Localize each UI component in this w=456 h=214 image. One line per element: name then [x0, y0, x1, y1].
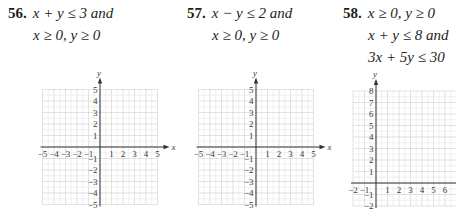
x-tick-label: −2	[348, 185, 358, 195]
x-tick-label: −4	[49, 149, 59, 159]
y-tick-label: −3	[244, 177, 254, 187]
y-tick-label: −4	[88, 188, 98, 198]
x-tick-label: 3	[288, 149, 293, 159]
y-tick-label: −2	[244, 165, 254, 175]
x-tick-label: −5	[194, 149, 204, 159]
x-axis-arrow-icon	[320, 145, 326, 149]
y-tick-label: −5	[244, 200, 254, 210]
x-tick-label: 4	[144, 149, 149, 159]
y-tick-label: −4	[244, 188, 254, 198]
x-tick-label: 2	[397, 185, 402, 195]
x-tick-label: −4	[205, 149, 215, 159]
y-axis-arrow-icon	[254, 78, 258, 84]
x-tick-label: 5	[311, 149, 316, 159]
y-tick-label: 3	[249, 108, 254, 118]
x-tick-label: −2	[228, 149, 238, 159]
y-axis-arrow-icon	[374, 79, 378, 85]
coordinate-grids: xy−5−4−3−2−11234554321−1−2−3−4−5xy−5−4−3…	[0, 0, 456, 214]
y-tick-label: −1	[244, 154, 254, 164]
x-tick-label: 4	[420, 185, 425, 195]
x-tick-label: 1	[109, 149, 114, 159]
y-axis-label: y	[372, 69, 377, 79]
x-tick-label: 6	[443, 185, 448, 195]
x-tick-label: −2	[72, 149, 82, 159]
x-tick-label: −5	[38, 149, 48, 159]
x-tick-label: 4	[300, 149, 305, 159]
x-tick-label: 2	[277, 149, 282, 159]
y-tick-label: 5	[369, 121, 374, 131]
y-tick-label: 5	[249, 85, 254, 95]
y-tick-label: 1	[93, 131, 98, 141]
y-axis-label: y	[252, 68, 257, 78]
x-tick-label: 5	[155, 149, 160, 159]
y-tick-label: 8	[369, 86, 374, 96]
y-tick-label: −1	[88, 154, 98, 164]
x-axis-arrow-icon	[164, 145, 170, 149]
y-tick-label: 5	[93, 85, 98, 95]
x-axis-label: x	[327, 142, 332, 152]
x-tick-label: −3	[217, 149, 227, 159]
x-tick-label: 1	[265, 149, 270, 159]
y-tick-label: −1	[364, 190, 374, 200]
y-tick-label: −2	[364, 201, 374, 211]
x-axis-label: x	[171, 142, 176, 152]
y-tick-label: 2	[369, 155, 374, 165]
x-tick-label: −3	[61, 149, 71, 159]
y-tick-label: 4	[249, 96, 254, 106]
y-tick-label: 4	[93, 96, 98, 106]
y-tick-label: 4	[369, 132, 374, 142]
y-tick-label: 3	[369, 144, 374, 154]
x-tick-label: 3	[408, 185, 413, 195]
y-tick-label: −2	[88, 165, 98, 175]
y-tick-label: 2	[93, 119, 98, 129]
y-tick-label: 7	[369, 98, 374, 108]
y-axis-arrow-icon	[98, 78, 102, 84]
x-tick-label: 5	[431, 185, 436, 195]
x-tick-label: 3	[132, 149, 137, 159]
y-tick-label: 6	[369, 109, 374, 119]
y-tick-label: 2	[249, 119, 254, 129]
x-tick-label: 2	[121, 149, 126, 159]
y-tick-label: 1	[369, 167, 374, 177]
y-tick-label: 3	[93, 108, 98, 118]
y-tick-label: −5	[88, 200, 98, 210]
y-tick-label: 1	[249, 131, 254, 141]
x-tick-label: 1	[385, 185, 390, 195]
y-axis-label: y	[96, 68, 101, 78]
y-tick-label: −3	[88, 177, 98, 187]
